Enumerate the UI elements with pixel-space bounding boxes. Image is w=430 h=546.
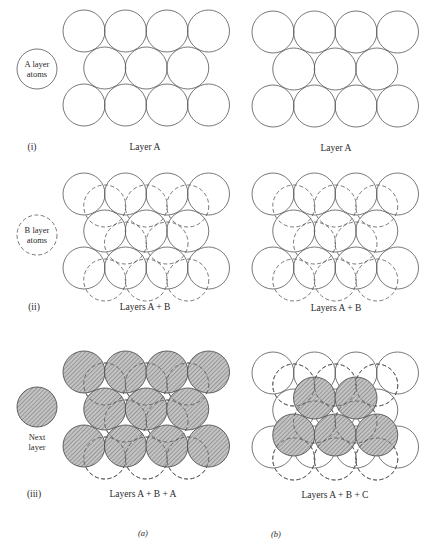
legend-b-layer: B layer atoms [17, 215, 57, 255]
a-layer-atom [377, 85, 419, 127]
next-layer-atom-icon [17, 387, 57, 427]
a-layer-atom [252, 11, 294, 53]
a-layer-atom [146, 84, 188, 126]
c-layer-atom [356, 414, 398, 456]
a-layer-atom [252, 173, 294, 215]
a-layer-atom [335, 11, 377, 53]
a-layer-atom [273, 210, 315, 252]
column-label-a: (a) [138, 528, 148, 538]
legend-a-line1: A layer [25, 59, 50, 69]
panel-b-iii-layers-abc [252, 352, 419, 480]
row-label-iii: (iii) [27, 489, 41, 500]
caption-a-i: Layer A [130, 142, 161, 152]
a-layer-atom [356, 48, 398, 90]
a-layer-atom [63, 247, 105, 289]
panel-a-ii-layers-ab [63, 173, 230, 301]
a-layer-atom [377, 11, 419, 53]
a-layer-atom [63, 173, 105, 215]
close-packing-figure: A layer atoms B layer atoms Next layer (… [0, 0, 430, 546]
a-layer-atom [273, 48, 315, 90]
legend-a-line2: atoms [27, 69, 47, 79]
a-layer-atom [335, 85, 377, 127]
legend-next-layer: Next layer [17, 387, 57, 452]
legend-b-line2: atoms [27, 235, 47, 245]
row-label-ii: (ii) [28, 302, 40, 313]
a-layer-atom [146, 10, 188, 52]
a-layer-atom [84, 47, 126, 89]
a-layer-atom [252, 247, 294, 289]
a-layer-atom [252, 352, 294, 394]
a-layer-atom [84, 388, 126, 430]
a-layer-atom [125, 47, 167, 89]
a-layer-atom [105, 84, 147, 126]
a-layer-atom [84, 210, 126, 252]
panel-a-iii-layers-aba [63, 351, 230, 479]
legend-next-line1: Next [29, 432, 46, 442]
a-layer-atom [63, 351, 105, 393]
panel-b-i-layer-a [252, 11, 419, 127]
panel-b-ii-layers-ab [252, 173, 419, 301]
caption-a-ii: Layers A + B [120, 302, 170, 312]
a-layer-atom [63, 84, 105, 126]
panel-a-i-layer-a [63, 10, 230, 126]
a-layer-atom [294, 11, 336, 53]
caption-b-i: Layer A [321, 143, 352, 153]
caption-a-iii: Layers A + B + A [110, 489, 177, 499]
caption-b-ii: Layers A + B [311, 303, 361, 313]
a-layer-atom [188, 10, 230, 52]
legend-b-line1: B layer [25, 225, 50, 235]
legend-a-layer: A layer atoms [17, 49, 57, 89]
a-layer-atom [167, 47, 209, 89]
a-layer-atom [294, 85, 336, 127]
a-layer-atom [63, 10, 105, 52]
a-layer-atom [63, 425, 105, 467]
a-layer-atom [314, 48, 356, 90]
row-label-i: (i) [28, 142, 37, 153]
legend-next-line2: layer [29, 442, 46, 452]
a-layer-atom [252, 85, 294, 127]
a-layer-atom [105, 10, 147, 52]
column-label-b: (b) [271, 529, 281, 539]
caption-b-iii: Layers A + B + C [302, 490, 369, 500]
a-layer-atom [188, 84, 230, 126]
